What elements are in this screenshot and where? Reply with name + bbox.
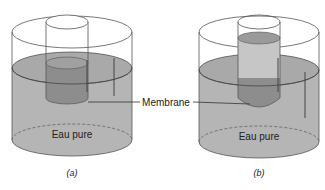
- inner-rim-a: [46, 15, 88, 29]
- caption-b: (b): [254, 168, 265, 178]
- panel-a: Eau pure (a): [12, 15, 132, 178]
- water-label-b: Eau pure: [239, 131, 280, 142]
- inner-rim-b: [238, 15, 280, 29]
- caption-a: (a): [67, 168, 78, 178]
- membrane-label: Membrane: [142, 97, 190, 108]
- panel-b: Eau pure (b): [199, 15, 319, 178]
- osmosis-diagram: Eau pure (a) Eau pure (b) Membrane: [0, 0, 325, 190]
- water-label-a: Eau pure: [52, 129, 93, 140]
